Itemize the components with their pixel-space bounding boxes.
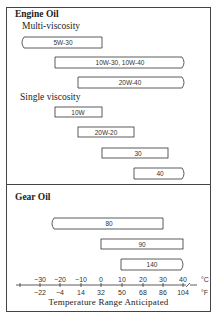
label-20w-20: 20W-20 bbox=[95, 129, 118, 136]
tick-c: −20 bbox=[54, 276, 66, 283]
unit-celsius: °C bbox=[201, 276, 209, 283]
label-30: 30 bbox=[134, 150, 142, 157]
label-10w: 10W bbox=[71, 109, 85, 116]
unit-fahrenheit: °F bbox=[201, 289, 208, 296]
label-20w-40: 20W-40 bbox=[119, 79, 142, 86]
tick-c: 10 bbox=[118, 276, 126, 283]
label-gear-90: 90 bbox=[138, 241, 146, 248]
range-chart: 5W-30 10W-30, 10W-40 20W-40 10W 20W-20 3… bbox=[0, 0, 217, 318]
tick-c: −10 bbox=[75, 276, 87, 283]
label-gear-140: 140 bbox=[147, 261, 158, 268]
tick-f: −4 bbox=[56, 289, 64, 296]
x-axis-title: Temperature Range Anticipated bbox=[0, 297, 217, 307]
label-10w-30: 10W-30, 10W-40 bbox=[96, 59, 145, 66]
label-5w-30: 5W-30 bbox=[53, 39, 72, 46]
tick-c: 20 bbox=[139, 276, 147, 283]
tick-f: 68 bbox=[139, 289, 147, 296]
tick-f: −22 bbox=[34, 289, 46, 296]
tick-f: 104 bbox=[177, 289, 189, 296]
tick-c: 30 bbox=[159, 276, 167, 283]
tick-f: 50 bbox=[118, 289, 126, 296]
tick-c: 0 bbox=[99, 276, 103, 283]
tick-f: 14 bbox=[77, 289, 85, 296]
label-40: 40 bbox=[156, 170, 164, 177]
tick-c: 40 bbox=[179, 276, 187, 283]
tick-f: 32 bbox=[97, 289, 105, 296]
tick-f: 86 bbox=[159, 289, 167, 296]
label-gear-80: 80 bbox=[105, 220, 113, 227]
tick-c: −30 bbox=[34, 276, 46, 283]
